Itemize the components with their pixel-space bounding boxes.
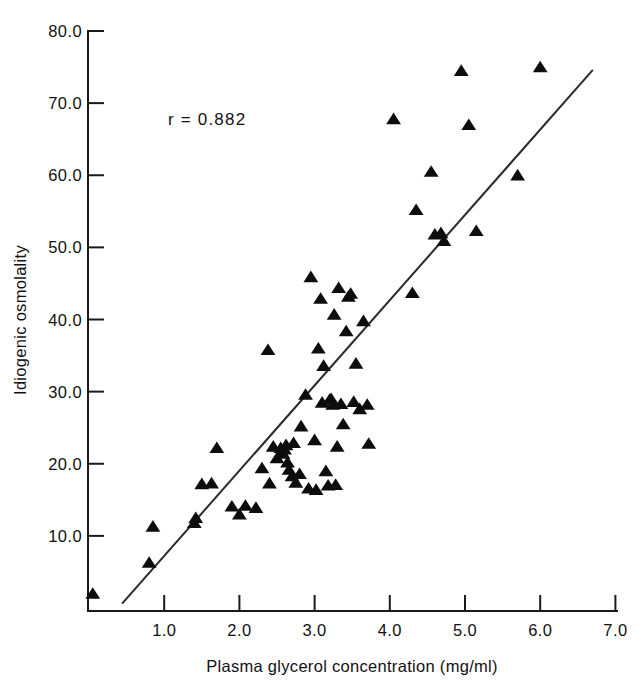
- data-point-marker: [360, 398, 375, 410]
- data-point-marker: [361, 437, 376, 449]
- y-axis-ticks: [88, 31, 104, 536]
- data-point-marker: [349, 357, 364, 369]
- x-tick-label: 5.0: [453, 621, 477, 639]
- data-point-marker: [336, 418, 351, 430]
- scatter-plot-figure: 10.020.030.040.050.060.070.080.0 1.02.03…: [0, 0, 644, 686]
- data-point-marker: [224, 500, 239, 512]
- y-tick-label: 80.0: [48, 22, 82, 40]
- data-point-marker: [209, 442, 224, 454]
- y-tick-label: 20.0: [48, 455, 82, 473]
- data-point-marker: [142, 556, 157, 568]
- y-tick-label: 30.0: [48, 383, 82, 401]
- y-axis-tick-labels: 10.020.030.040.050.060.070.080.0: [48, 22, 82, 545]
- data-point-marker: [294, 420, 309, 432]
- y-axis-title: Idiogenic osmolality: [11, 245, 29, 395]
- data-point-marker: [255, 462, 270, 474]
- data-point-marker: [204, 477, 219, 489]
- data-point-marker: [409, 203, 424, 215]
- data-point-marker: [303, 271, 318, 283]
- data-point-marker: [339, 325, 354, 337]
- x-tick-label: 6.0: [528, 621, 552, 639]
- data-point-marker: [146, 520, 161, 532]
- x-axis-ticks: [164, 595, 615, 611]
- x-tick-label: 3.0: [303, 621, 327, 639]
- data-point-marker: [469, 224, 484, 236]
- data-point-marker: [454, 64, 469, 76]
- y-tick-label: 10.0: [48, 527, 82, 545]
- data-point-marker: [330, 440, 345, 452]
- data-point-marker: [533, 61, 548, 73]
- data-point-marker: [356, 315, 371, 327]
- data-point-marker: [316, 359, 331, 371]
- data-point-marker: [313, 292, 328, 304]
- x-tick-label: 7.0: [603, 621, 627, 639]
- data-point-marker: [405, 286, 420, 298]
- x-tick-label: 1.0: [152, 621, 176, 639]
- chart-annotations: r = 0.882: [168, 110, 246, 129]
- data-point-marker: [424, 165, 439, 177]
- data-point-marker: [461, 118, 476, 130]
- x-axis-tick-labels: 1.02.03.04.05.06.07.0: [152, 621, 627, 639]
- data-point-marker: [307, 434, 322, 446]
- y-tick-label: 40.0: [48, 311, 82, 329]
- data-point-marker: [510, 169, 525, 181]
- data-point-marker: [286, 436, 301, 448]
- data-points: [85, 61, 547, 599]
- x-tick-label: 4.0: [378, 621, 402, 639]
- y-tick-label: 50.0: [48, 238, 82, 256]
- x-tick-label: 2.0: [227, 621, 251, 639]
- data-point-marker: [249, 501, 264, 513]
- data-point-marker: [331, 281, 346, 293]
- data-point-marker: [386, 113, 401, 125]
- data-point-marker: [327, 308, 342, 320]
- y-tick-label: 70.0: [48, 94, 82, 112]
- y-tick-label: 60.0: [48, 166, 82, 184]
- x-axis-title: Plasma glycerol concentration (mg/ml): [206, 657, 498, 675]
- data-point-marker: [261, 343, 276, 355]
- data-point-marker: [238, 499, 253, 511]
- data-point-marker: [262, 477, 277, 489]
- annotation-correlation: r = 0.882: [168, 110, 246, 129]
- data-point-marker: [311, 342, 326, 354]
- plot-canvas: 10.020.030.040.050.060.070.080.0 1.02.03…: [0, 0, 644, 686]
- data-point-marker: [318, 465, 333, 477]
